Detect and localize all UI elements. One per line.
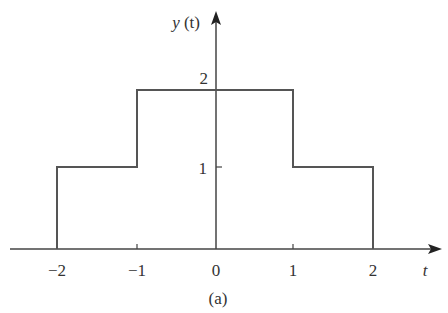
x-tick-label-1: 1 <box>289 261 298 280</box>
y-axis-label: y (t) <box>170 13 200 32</box>
y-tick-label-1: 1 <box>199 159 208 178</box>
x-tick-label-0: 0 <box>212 261 221 280</box>
y-tick-label-2: 2 <box>200 69 209 88</box>
x-tick-label-m2: −2 <box>48 261 66 280</box>
x-tick-label-m1: −1 <box>128 261 146 280</box>
x-axis-label: t <box>423 261 429 280</box>
y-axis-label-arg: (t) <box>184 13 200 32</box>
figure-caption: (a) <box>209 289 228 308</box>
signal-trace <box>57 90 373 249</box>
step-function-chart: −2 −1 0 1 2 1 2 t y (t) (a) <box>0 0 448 313</box>
y-axis-label-y: y <box>170 13 180 32</box>
x-tick-label-2: 2 <box>369 261 378 280</box>
